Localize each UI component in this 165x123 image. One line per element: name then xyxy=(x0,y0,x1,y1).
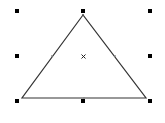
resize-handle-top-right[interactable] xyxy=(148,9,152,13)
center-x-mark-icon[interactable] xyxy=(81,54,86,59)
resize-handle-bottom-right[interactable] xyxy=(148,99,152,103)
edge-midpoint-right[interactable] xyxy=(114,55,116,57)
resize-handle-bottom-left[interactable] xyxy=(15,99,19,103)
resize-handle-top-left[interactable] xyxy=(15,9,19,13)
triangle-shape[interactable] xyxy=(0,0,165,123)
apex-vertex[interactable] xyxy=(82,14,84,16)
resize-handle-middle-right[interactable] xyxy=(148,54,152,58)
resize-handle-bottom-middle[interactable] xyxy=(81,99,85,103)
resize-handle-top-middle[interactable] xyxy=(81,9,85,13)
drawing-canvas[interactable]: Triangle xyxy=(0,0,165,123)
edge-midpoint-left[interactable] xyxy=(51,55,53,57)
resize-handle-middle-left[interactable] xyxy=(15,54,19,58)
